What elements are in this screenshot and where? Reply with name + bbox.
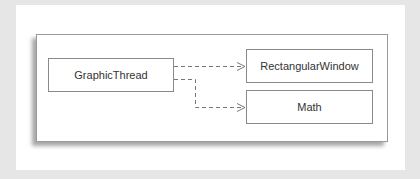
node-rectangular-window: RectangularWindow <box>246 49 373 83</box>
node-label: Math <box>297 101 321 113</box>
node-label: GraphicThread <box>74 69 147 81</box>
node-graphic-thread: GraphicThread <box>48 58 174 92</box>
node-math: Math <box>246 90 373 124</box>
node-label: RectangularWindow <box>260 60 358 72</box>
